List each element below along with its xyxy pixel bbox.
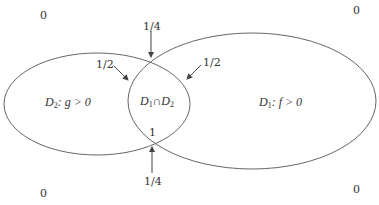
corner-value-top-right: 0: [353, 5, 360, 16]
corner-value-top-left: 0: [40, 10, 47, 21]
venn-diagram: 0 0 0 0 1/4 1/4 1/2 1/2 1 D2: g > 0 D1∩D…: [0, 0, 379, 205]
region-d2-label: D2: g > 0: [45, 96, 91, 110]
corner-value-bottom-left: 0: [40, 188, 47, 199]
annotation-bottom-quarter: 1/4: [144, 176, 162, 187]
annotation-left-half: 1/2: [96, 59, 114, 70]
annotation-interior-one: 1: [149, 127, 156, 138]
right-boundary-arrow: [187, 65, 201, 79]
left-boundary-arrow: [114, 66, 128, 80]
region-d1-label: D1: f > 0: [259, 96, 302, 110]
corner-value-bottom-right: 0: [353, 184, 360, 195]
intersection-label: D1∩D2: [140, 95, 174, 109]
annotation-top-quarter: 1/4: [143, 21, 161, 32]
annotation-right-half: 1/2: [203, 57, 221, 68]
